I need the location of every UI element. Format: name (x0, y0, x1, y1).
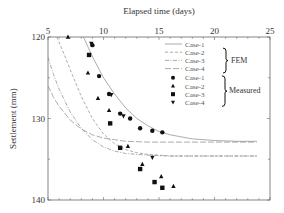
y-tick-label: 130 (32, 114, 46, 124)
measured-point-case-1 (97, 74, 101, 78)
measured-point-case-2 (86, 70, 90, 74)
measured-point-case-3 (152, 180, 156, 184)
measured-point-case-3 (87, 53, 91, 57)
measured-point-case-4 (121, 114, 125, 118)
legend-label-fem: Case-2 (185, 49, 205, 57)
legend-label-fem: Case-3 (185, 57, 205, 65)
measured-points (66, 35, 176, 190)
measured-point-case-3 (160, 186, 164, 190)
measured-point-case-1 (138, 126, 142, 130)
x-tick-label: 15 (155, 26, 165, 36)
legend-label-measured: Case-3 (185, 91, 205, 99)
measured-point-case-1 (150, 129, 154, 133)
settlement-chart: 510152025120130140Elapsed time (days)Set… (0, 0, 284, 213)
legend-label-measured: Case-2 (185, 83, 205, 91)
legend-marker-case-4 (171, 101, 175, 105)
measured-point-case-3 (118, 146, 122, 150)
x-tick-label: 5 (46, 26, 51, 36)
measured-point-case-2 (159, 174, 163, 178)
legend-group-fem: FEM (231, 56, 247, 65)
measured-point-case-1 (160, 130, 164, 134)
measured-point-case-2 (107, 108, 111, 112)
y-axis-title: Settlement (mm) (8, 88, 18, 149)
x-axis-title: Elapsed time (days) (123, 6, 194, 16)
measured-brace (222, 76, 227, 107)
legend-label-measured: Case-4 (185, 99, 205, 107)
legend-label-fem: Case-4 (185, 65, 205, 73)
legend-marker-case-2 (171, 84, 175, 88)
legend-label-fem: Case-1 (185, 41, 205, 49)
measured-point-case-2 (140, 162, 144, 166)
legend-group-measured: Measured (229, 86, 261, 95)
measured-point-case-3 (108, 121, 112, 125)
measured-point-case-2 (126, 144, 130, 148)
measured-point-case-1 (128, 116, 132, 120)
measured-point-case-1 (118, 111, 122, 115)
y-tick-label: 120 (32, 32, 46, 42)
measured-point-case-3 (138, 167, 142, 171)
fem-brace (223, 48, 228, 73)
measured-point-case-2 (171, 184, 175, 188)
x-tick-label: 25 (266, 26, 276, 36)
x-tick-label: 10 (99, 26, 109, 36)
legend-marker-case-1 (171, 76, 175, 80)
measured-point-case-2 (96, 96, 100, 100)
measured-point-case-4 (150, 156, 154, 160)
axes: 510152025120130140Elapsed time (days)Set… (8, 6, 275, 205)
legend-label-measured: Case-1 (185, 74, 205, 82)
x-tick-label: 20 (210, 26, 220, 36)
legend: Case-1Case-2Case-3Case-4FEMCase-1Case-2C… (165, 41, 261, 107)
legend-marker-case-3 (171, 92, 175, 96)
y-tick-label: 140 (32, 195, 46, 205)
